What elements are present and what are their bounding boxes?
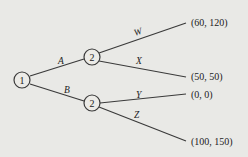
node-player-1: 1 xyxy=(14,72,30,88)
edge-label-w: W xyxy=(133,26,145,38)
edge-label-a: A xyxy=(57,56,64,66)
game-tree-diagram: A B W X Y Z 1 2 2 (60, 120) (50, 50) (0,… xyxy=(0,0,248,157)
edge-label-b: B xyxy=(64,85,70,95)
game-tree-canvas: A B W X Y Z 1 2 2 (60, 120) (50, 50) (0,… xyxy=(0,0,248,157)
node-player-2-lower: 2 xyxy=(84,95,100,111)
node-player-2-upper: 2 xyxy=(84,49,100,65)
payoff-w: (60, 120) xyxy=(191,17,228,29)
edge-x xyxy=(99,61,186,77)
node-label: 1 xyxy=(20,75,25,86)
payoff-y: (0, 0) xyxy=(191,89,213,101)
edge-label-z: Z xyxy=(134,110,140,120)
edge-a xyxy=(30,59,84,76)
edge-z xyxy=(99,107,186,141)
node-label: 2 xyxy=(90,52,95,63)
edge-y xyxy=(100,94,186,103)
payoff-x: (50, 50) xyxy=(191,71,223,83)
payoff-z: (100, 150) xyxy=(191,136,233,148)
edge-label-x: X xyxy=(135,56,143,66)
edge-b xyxy=(30,84,84,101)
edge-w xyxy=(99,23,186,53)
node-label: 2 xyxy=(90,98,95,109)
